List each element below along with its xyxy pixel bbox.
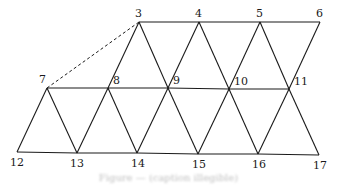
edge-8-14	[108, 88, 137, 153]
vertex-label-4: 4	[195, 7, 202, 20]
edge-14-15	[137, 153, 198, 154]
vertex-label-8: 8	[113, 74, 120, 87]
vertex-label-7: 7	[39, 73, 46, 86]
triangular-mesh-diagram: 34567891011121314151617	[0, 0, 337, 186]
vertex-label-14: 14	[131, 157, 145, 170]
dashed-edges	[47, 22, 139, 88]
vertex-label-9: 9	[173, 74, 180, 87]
edge-9-10	[168, 88, 229, 89]
edge-7-12	[17, 88, 47, 152]
vertex-label-11: 11	[294, 75, 308, 88]
vertex-label-3: 3	[135, 7, 142, 20]
edge-8-13	[77, 88, 108, 153]
edge-10-16	[229, 89, 258, 154]
edge-9-14	[137, 88, 168, 153]
edge-7-13	[47, 88, 77, 153]
vertex-label-16: 16	[252, 158, 266, 171]
edge-9-15	[168, 88, 198, 154]
vertex-label-15: 15	[192, 158, 206, 171]
vertex-label-5: 5	[256, 7, 263, 20]
dashed-edge-7-3	[47, 22, 139, 88]
edge-16-17	[258, 154, 319, 155]
figure-caption: Figure — (caption illegible)	[0, 172, 337, 183]
edge-10-15	[198, 89, 229, 154]
mesh-edges	[17, 22, 320, 155]
edge-4-10	[199, 22, 229, 89]
edge-5-11	[260, 22, 289, 89]
vertex-label-17: 17	[313, 159, 327, 172]
edge-11-16	[258, 89, 289, 154]
edge-12-13	[17, 152, 77, 153]
vertex-label-10: 10	[234, 75, 248, 88]
edge-3-9	[139, 22, 168, 88]
edge-11-17	[289, 89, 319, 155]
vertex-label-13: 13	[70, 157, 84, 170]
vertex-label-12: 12	[10, 156, 24, 169]
vertex-label-6: 6	[316, 7, 323, 20]
